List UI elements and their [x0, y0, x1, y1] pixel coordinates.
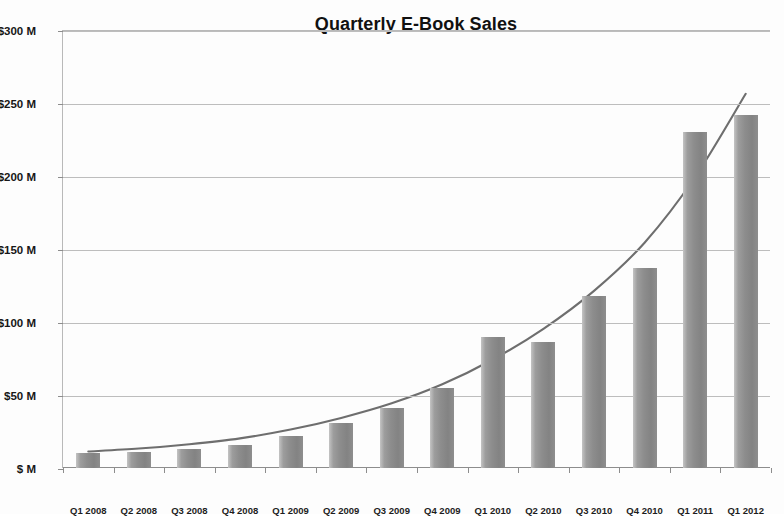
y-axis-tick [58, 323, 63, 324]
gridline [63, 250, 770, 251]
x-axis-tick [518, 468, 519, 473]
x-axis-label: Q4 2008 [222, 505, 258, 516]
y-axis-tick [58, 396, 63, 397]
y-axis-tick [58, 250, 63, 251]
y-axis-label: $200 M [0, 171, 46, 183]
x-axis-label: Q1 2009 [272, 505, 308, 516]
x-axis-tick [468, 468, 469, 473]
x-axis-tick [417, 468, 418, 473]
x-axis-tick [720, 468, 721, 473]
x-axis-tick [63, 468, 64, 473]
bar[interactable] [380, 408, 404, 468]
x-axis-label: Q3 2010 [576, 505, 612, 516]
bar[interactable] [683, 132, 707, 468]
bar[interactable] [177, 449, 201, 468]
gridline [63, 177, 770, 178]
x-axis-label: Q4 2010 [626, 505, 662, 516]
x-axis-label: Q2 2009 [323, 505, 359, 516]
y-axis-tick [58, 177, 63, 178]
y-axis-label: $50 M [0, 390, 46, 402]
y-axis-tick [58, 31, 63, 32]
plot-area: $ M$50 M$100 M$150 M$200 M$250 M$300 MQ1… [62, 30, 770, 468]
bar[interactable] [582, 296, 606, 468]
bar[interactable] [228, 445, 252, 468]
x-axis-tick [670, 468, 671, 473]
x-axis-label: Q1 2011 [677, 505, 713, 516]
x-axis-tick [316, 468, 317, 473]
x-axis-tick [569, 468, 570, 473]
gridline [63, 104, 770, 105]
x-axis-label: Q2 2008 [121, 505, 157, 516]
bar[interactable] [481, 337, 505, 468]
x-axis-label: Q1 2012 [727, 505, 763, 516]
y-axis-label: $250 M [0, 98, 46, 110]
bar[interactable] [279, 436, 303, 468]
bar[interactable] [531, 342, 555, 468]
bar[interactable] [127, 452, 151, 468]
bar[interactable] [76, 453, 100, 468]
y-axis-label: $100 M [0, 317, 46, 329]
x-axis-label: Q1 2008 [70, 505, 106, 516]
y-axis-tick [58, 104, 63, 105]
x-axis-tick [771, 468, 772, 473]
x-axis-tick [114, 468, 115, 473]
y-axis-label: $150 M [0, 244, 46, 256]
x-axis-label: Q1 2010 [475, 505, 511, 516]
bar[interactable] [430, 388, 454, 468]
x-axis-label: Q2 2010 [525, 505, 561, 516]
gridline [63, 323, 770, 324]
gridline [63, 31, 770, 32]
bar[interactable] [633, 268, 657, 468]
x-axis-tick [265, 468, 266, 473]
x-axis-tick [619, 468, 620, 473]
x-axis-tick [366, 468, 367, 473]
x-axis-tick [164, 468, 165, 473]
y-axis-label: $300 M [0, 25, 46, 37]
bar[interactable] [329, 423, 353, 468]
bar[interactable] [734, 115, 758, 468]
x-axis-tick [215, 468, 216, 473]
y-axis-label: $ M [0, 463, 46, 475]
gridline [63, 396, 770, 397]
x-axis-label: Q4 2009 [424, 505, 460, 516]
x-axis-label: Q3 2008 [171, 505, 207, 516]
x-axis-label: Q3 2009 [373, 505, 409, 516]
